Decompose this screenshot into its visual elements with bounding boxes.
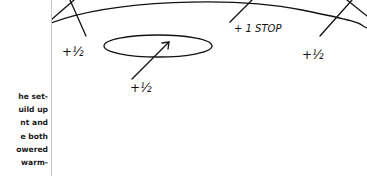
label-ellipse-half: +½: [130, 81, 152, 95]
left-cross-line-b: [70, 0, 86, 36]
body-text-fragment: he set- uild up nt and e both owered war…: [16, 90, 48, 169]
right-cross-line-b: [347, 0, 367, 16]
label-plus-one-stop: + 1 STOP: [234, 23, 282, 34]
text-line: e both: [16, 130, 48, 143]
lighting-diagram: + 1 STOP +½ +½ +½: [52, 0, 367, 176]
label-left-half: +½: [62, 45, 84, 59]
right-cross-line-a: [320, 0, 352, 36]
label-right-half: +½: [302, 48, 324, 62]
text-line: owered: [16, 143, 48, 156]
arrow-line: [132, 42, 169, 79]
text-line: uild up: [16, 103, 48, 116]
text-line: warm-: [16, 156, 48, 169]
left-text-column: he set- uild up nt and e both owered war…: [0, 0, 50, 176]
text-line: he set-: [16, 90, 48, 103]
arc-line: [52, 2, 367, 28]
text-line: nt and: [16, 116, 48, 129]
